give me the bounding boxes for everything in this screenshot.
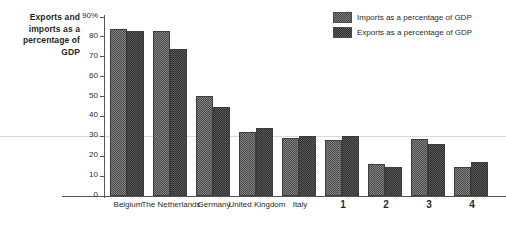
bar-exports	[342, 136, 359, 196]
y-axis-tick-label: 70	[60, 51, 98, 60]
bar-group-bars	[110, 17, 144, 196]
bar-imports	[196, 96, 213, 196]
y-axis-tick-label: 50	[60, 91, 98, 100]
x-axis-category-label: 4	[440, 200, 504, 210]
bar-group-bars	[411, 17, 445, 196]
y-axis-tick-label: 20	[60, 150, 98, 159]
bar-imports	[325, 140, 342, 196]
bar-exports	[213, 107, 230, 197]
bar-exports	[170, 49, 187, 196]
bar-group-bars	[153, 17, 187, 196]
bar-imports	[282, 138, 299, 196]
x-axis-line	[62, 196, 506, 197]
bar-group-bars	[368, 17, 402, 196]
bar-group-bars	[282, 17, 316, 196]
bar-group-bars	[239, 17, 273, 196]
bar-imports	[239, 132, 256, 196]
y-axis-tick-label: 40	[60, 110, 98, 119]
bar-exports	[471, 162, 488, 196]
y-axis-tick-label: 90%	[60, 11, 98, 20]
y-axis-tick-label: 0	[60, 190, 98, 199]
y-axis-tick-label: 10	[60, 170, 98, 179]
bar-exports	[127, 31, 144, 196]
y-axis-tick-label: 60	[60, 71, 98, 80]
chart-figure: Exports and imports as a percentage of G…	[0, 0, 506, 230]
bar-imports	[110, 29, 127, 196]
bar-imports	[153, 31, 170, 196]
bar-group-bars	[325, 17, 359, 196]
bar-imports	[411, 139, 428, 196]
bar-exports	[385, 167, 402, 196]
bar-exports	[256, 128, 273, 196]
bar-group-bars	[196, 17, 230, 196]
y-axis-tick-label: 80	[60, 31, 98, 40]
bar-exports	[428, 144, 445, 196]
bar-group-bars	[454, 17, 488, 196]
bar-imports	[454, 167, 471, 196]
bar-exports	[299, 136, 316, 196]
plot-area: BelgiumThe NetherlandsGermanyUnited King…	[104, 17, 500, 196]
y-axis-tick-label: 30	[60, 130, 98, 139]
bar-imports	[368, 164, 385, 196]
